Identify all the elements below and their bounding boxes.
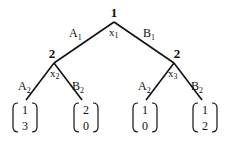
game-tree: 1 x1 A1 B1 2 x2 A2 B2 2 x3 A2 B2 1 3 2 0… [0,0,228,144]
action-left-A2: A2 [18,79,31,95]
action-right-B2: B2 [191,79,203,95]
payoff-4-p2: 2 [202,119,208,133]
payoff-vector-1: 1 3 [13,103,37,133]
action-A1: A1 [69,26,82,42]
left-player-label: 2 [49,46,56,61]
payoff-3-p2: 0 [142,119,148,133]
payoff-1-p1: 1 [22,103,28,117]
payoff-vector-4: 1 2 [193,103,217,133]
action-B1: B1 [143,26,155,42]
root-node-label: x1 [109,26,119,40]
payoff-2-p2: 0 [83,119,89,133]
edge-A1 [54,22,114,63]
payoff-1-p2: 3 [22,119,28,133]
payoff-vector-3: 1 0 [133,103,157,133]
right-node-label: x3 [168,67,178,81]
right-player-label: 2 [174,46,181,61]
payoff-vector-2: 2 0 [74,103,98,133]
action-right-A2: A2 [138,79,151,95]
payoff-3-p1: 1 [142,103,148,117]
root-player-label: 1 [111,5,118,20]
payoff-4-p1: 1 [202,103,208,117]
action-left-B2: B2 [72,79,84,95]
payoff-2-p1: 2 [83,103,89,117]
